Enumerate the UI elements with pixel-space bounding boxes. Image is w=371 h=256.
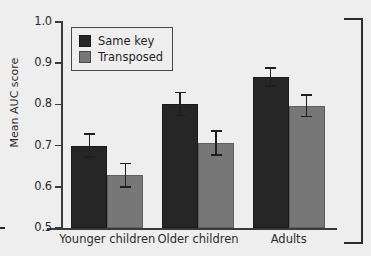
bar-chart-figure: Mean AUC score 1.00.90.80.70.60.5 Younge… bbox=[0, 0, 371, 256]
left-edge-stub-mark bbox=[0, 227, 5, 229]
y-axis-tick bbox=[55, 227, 61, 229]
error-bar-cap-upper bbox=[301, 94, 312, 96]
error-bar-line bbox=[270, 68, 272, 86]
y-axis-tick bbox=[55, 145, 61, 147]
y-axis-tick-label: 1.0 bbox=[18, 14, 52, 28]
right-bracket-annotation bbox=[344, 18, 363, 244]
error-bar-cap-upper bbox=[265, 67, 276, 69]
bar bbox=[162, 104, 198, 228]
y-axis-tick-label: 0.8 bbox=[18, 96, 52, 110]
error-bar-cap-upper bbox=[120, 163, 131, 165]
error-bar-line bbox=[125, 163, 127, 187]
y-axis-tick-label: 0.7 bbox=[18, 138, 52, 152]
y-axis-tick bbox=[55, 62, 61, 64]
x-axis-line bbox=[47, 228, 337, 230]
error-bar-cap-upper bbox=[211, 130, 222, 132]
y-axis-tick bbox=[55, 21, 61, 23]
error-bar-cap-lower bbox=[301, 116, 312, 118]
x-axis-category-label: Adults bbox=[219, 232, 359, 246]
error-bar-cap-lower bbox=[211, 154, 222, 156]
bar bbox=[289, 106, 325, 228]
error-bar-line bbox=[179, 92, 181, 115]
bar bbox=[198, 143, 234, 228]
error-bar-line bbox=[306, 95, 308, 116]
dark-square-swatch-icon bbox=[79, 35, 91, 47]
chart-legend: Same key Transposed bbox=[71, 27, 173, 71]
error-bar-cap-upper bbox=[175, 92, 186, 94]
legend-entry-same-key: Same key bbox=[79, 33, 163, 49]
y-axis-tick-label: 0.6 bbox=[18, 179, 52, 193]
y-axis-tick bbox=[55, 104, 61, 106]
y-axis-tick bbox=[55, 186, 61, 188]
error-bar-cap-lower bbox=[84, 156, 95, 158]
error-bar-line bbox=[89, 134, 91, 157]
bar bbox=[253, 77, 289, 228]
bar bbox=[71, 146, 107, 228]
error-bar-cap-lower bbox=[265, 85, 276, 87]
error-bar-cap-lower bbox=[175, 115, 186, 117]
legend-label-same-key: Same key bbox=[98, 34, 154, 48]
legend-label-transposed: Transposed bbox=[98, 50, 163, 64]
legend-entry-transposed: Transposed bbox=[79, 49, 163, 65]
error-bar-line bbox=[215, 131, 217, 155]
y-axis-tick-label: 0.9 bbox=[18, 55, 52, 69]
error-bar-cap-lower bbox=[120, 186, 131, 188]
error-bar-cap-upper bbox=[84, 133, 95, 135]
gray-square-swatch-icon bbox=[79, 51, 91, 63]
